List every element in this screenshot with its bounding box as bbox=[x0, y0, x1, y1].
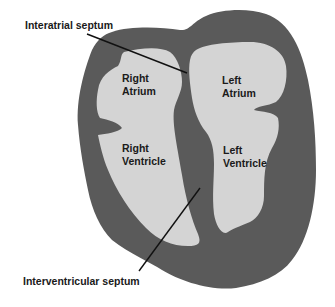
right-ventricle-label-line1: Right bbox=[122, 142, 149, 154]
right-ventricle-label-line2: Ventricle bbox=[122, 155, 166, 167]
left-atrium-label-line2: Atrium bbox=[222, 87, 256, 99]
left-ventricle-label-line1: Left bbox=[223, 144, 243, 156]
heart-diagram: Interatrial septum Interventricular sept… bbox=[0, 0, 335, 307]
right-atrium-label-line1: Right bbox=[122, 72, 149, 84]
interventricular-septum-label: Interventricular septum bbox=[23, 275, 140, 287]
right-atrium-label-line2: Atrium bbox=[122, 85, 156, 97]
interatrial-septum-label: Interatrial septum bbox=[25, 19, 113, 31]
left-ventricle-label-line2: Ventricle bbox=[223, 157, 267, 169]
left-atrium-label-line1: Left bbox=[222, 74, 242, 86]
